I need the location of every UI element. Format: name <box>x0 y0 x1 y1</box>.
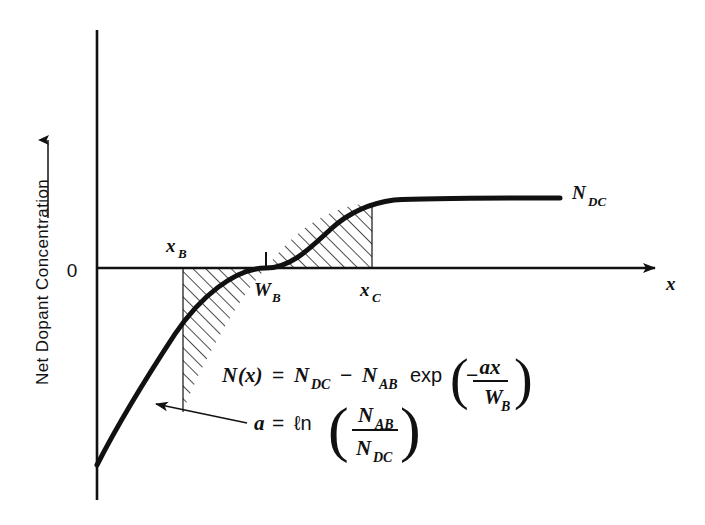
n-dc-subscript: DC <box>587 194 606 209</box>
w-b-subscript: B <box>271 290 281 305</box>
leader-arrow-icon <box>156 404 247 423</box>
equation-term1-base: N <box>293 363 310 387</box>
equation-lhs-function: N <box>221 363 238 387</box>
equation-term2-subscript: AB <box>378 377 398 392</box>
secondary-denominator-subscript: DC <box>372 450 393 465</box>
w-b-marker-label: W B <box>254 279 281 305</box>
shaded-regions-group <box>175 196 380 425</box>
equation-lhs-argument: (x) <box>238 363 263 387</box>
y-zero-tick-label: 0 <box>67 260 78 281</box>
x-c-subscript: C <box>372 290 381 305</box>
equation-term2-base: N <box>361 363 378 387</box>
x-c-base: x <box>359 279 370 300</box>
figure-canvas: Net Dopant Concentration 0 x x B W B x C… <box>0 0 705 525</box>
secondary-numerator-base: N <box>357 403 374 427</box>
curve-leader-annotation <box>156 404 247 423</box>
n-dc-base: N <box>571 182 587 203</box>
equation-exp-function: exp <box>410 364 442 386</box>
main-equation: N (x) = N DC − N AB exp ( − ax W B ) <box>221 348 533 414</box>
equation-exponent-sign: − <box>466 363 478 386</box>
secondary-equation-open-paren: ( <box>328 395 349 464</box>
secondary-equation-lhs: a <box>254 411 265 435</box>
equation-close-paren: ) <box>514 348 533 411</box>
x-b-marker-label: x B <box>165 235 187 261</box>
equation-equals-sign: = <box>272 363 284 386</box>
dopant-concentration-figure: Net Dopant Concentration 0 x x B W B x C… <box>0 0 705 525</box>
equation-fraction-numerator: ax <box>480 355 501 379</box>
secondary-equation-ln-symbol: ℓn <box>294 412 312 434</box>
x-axis-label: x <box>665 273 676 294</box>
secondary-equation-close-paren: ) <box>400 395 421 464</box>
equation-term1-subscript: DC <box>310 377 331 392</box>
n-dc-marker-label: N DC <box>571 182 606 209</box>
x-b-subscript: B <box>177 246 187 261</box>
y-axis-title-group: Net Dopant Concentration <box>33 140 52 385</box>
equation-minus-sign: − <box>340 363 352 386</box>
secondary-equation-equals-sign: = <box>272 411 284 434</box>
y-axis-title: Net Dopant Concentration <box>33 179 52 385</box>
equation-fraction-denominator-subscript: B <box>500 399 510 414</box>
x-b-base: x <box>165 235 176 256</box>
x-c-marker-label: x C <box>359 279 381 305</box>
secondary-denominator-base: N <box>355 436 372 460</box>
secondary-equation: a = ℓn ( N AB N DC ) <box>254 395 421 465</box>
w-b-base: W <box>254 279 272 300</box>
